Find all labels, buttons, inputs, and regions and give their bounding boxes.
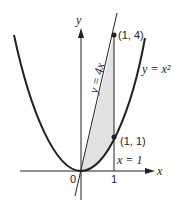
y-axis-label: y (75, 13, 82, 27)
origin-label: 0 (70, 173, 76, 185)
region-diagram: y x 0 1 (1, 4) (1, 1) y = x² y = 4x x = … (0, 0, 179, 204)
point-1-1 (112, 135, 117, 140)
x-axis-arrow-icon (145, 168, 155, 174)
x-equals-1-label: x = 1 (116, 153, 142, 167)
point-1-4-label: (1, 4) (118, 29, 144, 41)
point-1-4 (112, 33, 117, 38)
point-1-1-label: (1, 1) (120, 135, 146, 147)
shaded-region (81, 35, 114, 171)
parabola-y-equals-x-squared (14, 35, 145, 171)
y-axis-arrow-icon (78, 28, 84, 38)
x-axis-label: x (156, 164, 163, 178)
tick-x1-label: 1 (111, 173, 117, 185)
parabola-label: y = x² (141, 62, 171, 76)
